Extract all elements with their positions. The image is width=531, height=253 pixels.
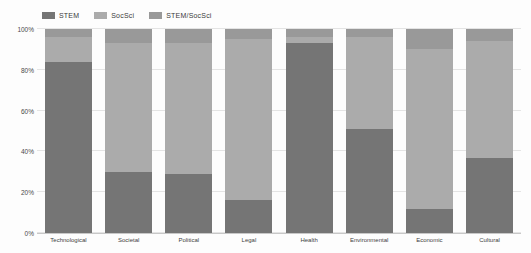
segment-stem-socsci-political [165,29,212,43]
x-tick-label-societal: Societal [105,237,152,243]
segment-stem-health [286,43,333,233]
legend-label: STEM [59,12,79,19]
x-tick-label-technological: Technological [45,237,92,243]
segment-socsci-political [165,43,212,174]
bar-cultural [466,29,513,233]
segment-stem-societal [105,172,152,233]
stacked-bar-chart-figure: STEMSocSciSTEM/SocSci TechnologicalSocie… [0,0,531,253]
x-tick-label-economic: Economic [406,237,453,243]
segment-stem-legal [225,200,272,233]
x-axis-line [37,233,521,234]
legend-swatch-icon [149,12,162,19]
x-tick-label-political: Political [165,237,212,243]
x-axis-labels: TechnologicalSocietalPoliticalLegalHealt… [37,237,521,243]
bar-technological [45,29,92,233]
x-tick-label-environmental: Environmental [346,237,393,243]
bar-health [286,29,333,233]
legend-item-0: STEM [42,12,79,19]
segment-stem-socsci-cultural [466,29,513,41]
segment-socsci-legal [225,39,272,200]
segment-stem-socsci-economic [406,29,453,49]
segment-stem-cultural [466,158,513,233]
y-tick-label: 40% [21,148,34,155]
segment-socsci-environmental [346,37,393,129]
bar-legal [225,29,272,233]
segment-stem-political [165,174,212,233]
segment-stem-socsci-health [286,29,333,37]
bar-political [165,29,212,233]
segment-stem-economic [406,209,453,233]
segment-socsci-cultural [466,41,513,157]
x-tick-label-cultural: Cultural [466,237,513,243]
segment-stem-socsci-societal [105,29,152,43]
y-tick-label: 20% [21,189,34,196]
y-tick-label: 60% [21,107,34,114]
x-tick-label-health: Health [286,237,333,243]
bar-societal [105,29,152,233]
legend-item-2: STEM/SocSci [149,12,211,19]
legend-swatch-icon [94,12,107,19]
segment-stem-socsci-legal [225,29,272,39]
segment-stem-socsci-technological [45,29,92,37]
segment-stem-environmental [346,129,393,233]
chart-legend: STEMSocSciSTEM/SocSci [42,12,212,19]
legend-swatch-icon [42,12,55,19]
legend-label: SocSci [111,12,134,19]
legend-item-1: SocSci [94,12,134,19]
y-tick-label: 100% [17,26,34,33]
segment-socsci-societal [105,43,152,172]
bar-economic [406,29,453,233]
segment-stem-socsci-environmental [346,29,393,37]
y-tick-label: 80% [21,66,34,73]
bar-environmental [346,29,393,233]
legend-label: STEM/SocSci [166,12,211,19]
segment-socsci-technological [45,37,92,61]
segment-stem-technological [45,62,92,233]
y-tick-label: 0% [25,230,34,237]
plot-area: TechnologicalSocietalPoliticalLegalHealt… [37,29,521,233]
x-tick-label-legal: Legal [225,237,272,243]
segment-socsci-economic [406,49,453,208]
bars-container [37,29,521,233]
